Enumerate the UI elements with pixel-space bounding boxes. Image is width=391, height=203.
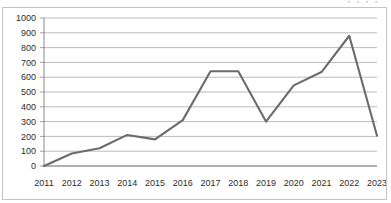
y-tick-label: 200 [21,132,36,142]
data-series-group [44,36,377,166]
y-tick-label: 700 [21,58,36,68]
clipped-header-strip: ・・・・ [0,0,391,7]
clipped-header-text: ・・・・ [345,0,381,7]
y-tick-label: 100 [21,146,36,156]
y-tick-label: 900 [21,28,36,38]
x-tick-label: 2017 [200,178,220,188]
x-tick-label: 2022 [339,178,359,188]
y-tick-label: 0 [31,161,36,171]
y-tick-label: 800 [21,43,36,53]
y-tick-label: 500 [21,87,36,97]
chart-page: ・・・・ 01002003004005006007008009001000 20… [0,0,391,203]
y-tick-label: 300 [21,117,36,127]
y-axis-labels: 01002003004005006007008009001000 [16,13,36,171]
x-tick-label: 2013 [89,178,109,188]
x-tick-label: 2021 [311,178,331,188]
x-tick-label: 2023 [367,178,386,188]
x-tick-label: 2020 [284,178,304,188]
x-axis-labels: 2011201220132014201520162017201820192020… [34,178,386,188]
x-tick-label: 2014 [117,178,137,188]
x-tick-label: 2012 [62,178,82,188]
data-line-series-1 [44,36,377,166]
x-tick-label: 2015 [145,178,165,188]
x-tick-label: 2016 [173,178,193,188]
chart-svg: 01002003004005006007008009001000 2011201… [3,8,386,199]
x-tick-label: 2019 [256,178,276,188]
y-tick-label: 1000 [16,13,36,23]
x-tick-label: 2018 [228,178,248,188]
gridlines-group [44,18,377,166]
tickmarks-group [40,18,44,166]
chart-frame: 01002003004005006007008009001000 2011201… [2,7,387,200]
line-chart: 01002003004005006007008009001000 2011201… [3,8,386,199]
y-tick-label: 600 [21,72,36,82]
y-tick-label: 400 [21,102,36,112]
x-tick-label: 2011 [34,178,53,188]
